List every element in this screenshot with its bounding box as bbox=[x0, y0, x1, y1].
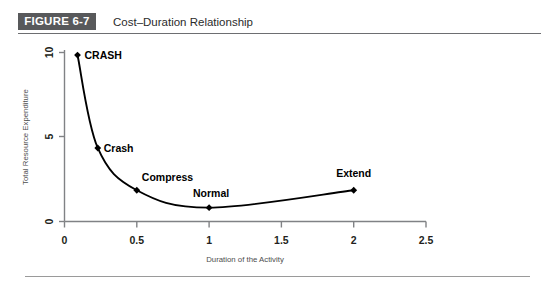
x-tick-label-0: 0 bbox=[62, 234, 68, 246]
y-tick-label-0: 0 bbox=[43, 218, 55, 224]
chart-plot-area: 0 5 10 Total Resource Expenditure 0 0.5 … bbox=[0, 36, 559, 276]
y-tick-label-10: 10 bbox=[43, 47, 55, 59]
data-point-marker bbox=[206, 204, 213, 211]
data-point-label-crash: CRASH bbox=[85, 49, 122, 61]
data-point-label-crash: Crash bbox=[104, 142, 134, 154]
x-tick-label-1.5: 1.5 bbox=[274, 234, 289, 246]
x-axis-title: Duration of the Activity bbox=[206, 255, 284, 264]
figure-number-badge: FIGURE 6-7 bbox=[18, 13, 96, 30]
x-axis-ticks bbox=[65, 222, 427, 228]
y-tick-label-5: 5 bbox=[43, 133, 55, 139]
header-divider bbox=[18, 33, 541, 34]
y-axis-ticks bbox=[59, 53, 65, 222]
figure-title: Cost–Duration Relationship bbox=[113, 14, 253, 30]
x-tick-label-0.5: 0.5 bbox=[129, 234, 144, 246]
figure-header: FIGURE 6-7 Cost–Duration Relationship bbox=[0, 0, 559, 36]
y-axis-title: Total Resource Expenditure bbox=[21, 89, 30, 185]
data-point-marker bbox=[74, 52, 81, 59]
footer-divider bbox=[25, 276, 530, 277]
figure-container: FIGURE 6-7 Cost–Duration Relationship bbox=[0, 0, 559, 290]
data-point-marker bbox=[350, 187, 357, 194]
cost-duration-chart: 0 5 10 Total Resource Expenditure 0 0.5 … bbox=[0, 36, 559, 276]
data-point-label-extend: Extend bbox=[336, 167, 371, 179]
data-point-label-compress: Compress bbox=[142, 171, 194, 183]
data-point-marker bbox=[94, 145, 101, 152]
x-tick-label-2: 2 bbox=[351, 234, 357, 246]
data-point-labels: CRASHCrashCompressNormalExtend bbox=[85, 49, 372, 199]
x-tick-label-1: 1 bbox=[206, 234, 212, 246]
cost-duration-curve bbox=[78, 55, 354, 208]
data-point-label-normal: Normal bbox=[193, 187, 229, 199]
x-tick-label-2.5: 2.5 bbox=[419, 234, 434, 246]
